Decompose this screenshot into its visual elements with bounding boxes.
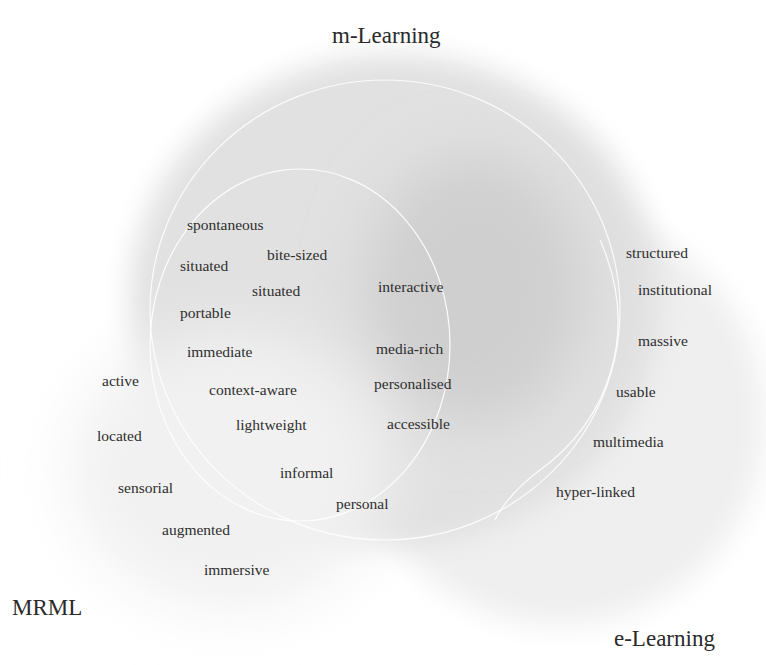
term-bite-sized: bite-sized <box>267 247 327 263</box>
term-informal: informal <box>280 465 333 481</box>
term-interactive: interactive <box>378 279 443 295</box>
term-context-aware: context-aware <box>209 382 297 398</box>
term-structured: structured <box>626 245 688 261</box>
term-active: active <box>102 373 139 389</box>
term-spontaneous: spontaneous <box>187 217 264 233</box>
term-institutional: institutional <box>638 282 712 298</box>
term-lightweight: lightweight <box>236 417 307 433</box>
term-sensorial: sensorial <box>118 480 173 496</box>
term-immediate: immediate <box>187 344 252 360</box>
term-situated: situated <box>180 258 228 274</box>
term-multimedia: multimedia <box>593 434 664 450</box>
term-portable: portable <box>180 305 231 321</box>
term-accessible: accessible <box>387 416 450 432</box>
e-learning-title: e-Learning <box>614 627 715 650</box>
m-learning-title: m-Learning <box>332 24 441 47</box>
term-personalised: personalised <box>374 376 451 392</box>
term-immersive: immersive <box>204 562 269 578</box>
term-personal: personal <box>336 496 389 512</box>
term-located: located <box>97 428 142 444</box>
term-augmented: augmented <box>162 522 230 538</box>
term-hyper-linked: hyper-linked <box>556 484 635 500</box>
term-media-rich: media-rich <box>376 341 443 357</box>
mrml-title: MRML <box>12 596 82 619</box>
term-massive: massive <box>638 333 688 349</box>
term-situated-2: situated <box>252 283 300 299</box>
term-usable: usable <box>616 384 656 400</box>
